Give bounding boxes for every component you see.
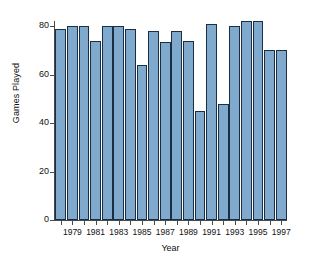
- bar: [125, 29, 136, 220]
- bar: [183, 41, 194, 220]
- x-axis-tick-label: 1997: [261, 227, 301, 237]
- x-axis-tick: [188, 221, 189, 225]
- plot-area: [55, 14, 287, 220]
- x-axis-tick: [258, 221, 259, 225]
- x-axis-tick: [119, 221, 120, 225]
- bar: [113, 26, 124, 220]
- y-axis-tick-label: 20: [19, 166, 49, 176]
- bar: [195, 111, 206, 220]
- bar: [148, 31, 159, 220]
- x-axis-tick: [165, 221, 166, 225]
- bar: [67, 26, 78, 220]
- x-axis-tick: [142, 221, 143, 225]
- bar: [206, 24, 217, 220]
- x-axis-tick: [281, 221, 282, 225]
- x-axis-tick: [154, 221, 155, 225]
- x-axis-tick: [246, 221, 247, 225]
- bar: [137, 65, 148, 220]
- x-axis-tick: [200, 221, 201, 225]
- bar: [55, 29, 66, 220]
- bar: [90, 41, 101, 220]
- bar-chart-figure: Games Played 020406080 19791981198319851…: [0, 0, 309, 265]
- x-axis-tick: [72, 221, 73, 225]
- bar: [218, 104, 229, 220]
- bar: [171, 31, 182, 220]
- bar: [102, 26, 113, 220]
- bar: [276, 50, 287, 220]
- y-axis-title: Games Played: [11, 33, 21, 153]
- bar: [264, 50, 275, 220]
- x-axis-tick: [61, 221, 62, 225]
- bar: [241, 21, 252, 220]
- y-axis-tick-label: 60: [19, 69, 49, 79]
- bar: [160, 42, 171, 220]
- x-axis-tick: [235, 221, 236, 225]
- y-axis-tick-label: 80: [19, 20, 49, 30]
- x-axis-tick: [223, 221, 224, 225]
- x-axis-tick: [177, 221, 178, 225]
- bar: [253, 21, 264, 220]
- x-axis-tick: [130, 221, 131, 225]
- bar: [79, 26, 90, 220]
- x-axis-line: [54, 220, 287, 221]
- y-axis-tick-label: 0: [19, 214, 49, 224]
- x-axis-title: Year: [54, 243, 287, 253]
- x-axis-tick: [107, 221, 108, 225]
- x-axis-tick: [84, 221, 85, 225]
- x-axis-tick: [270, 221, 271, 225]
- x-axis-tick: [212, 221, 213, 225]
- bar: [229, 26, 240, 220]
- x-axis-tick: [96, 221, 97, 225]
- y-axis-tick-label: 40: [19, 117, 49, 127]
